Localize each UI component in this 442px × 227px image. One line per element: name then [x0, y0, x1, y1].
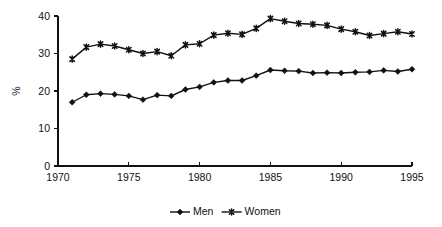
- x-tick-label: 1970: [46, 171, 70, 183]
- data-point: [183, 87, 189, 93]
- data-point: [126, 93, 132, 99]
- y-tick-label: 30: [38, 47, 50, 59]
- data-point: [112, 91, 118, 97]
- legend-label-women: Women: [245, 205, 281, 217]
- data-point: [197, 84, 203, 90]
- data-point: [409, 66, 415, 72]
- x-tick-label: 1980: [188, 171, 212, 183]
- data-point: [296, 68, 302, 74]
- line-chart-figure: 010203040 197019751980198519901995 % Men…: [0, 0, 442, 227]
- data-point: [367, 69, 373, 75]
- data-point: [381, 67, 387, 73]
- chart-canvas: 010203040 197019751980198519901995 % Men…: [0, 0, 442, 227]
- data-point: [225, 78, 231, 84]
- series-line-women: [72, 19, 412, 60]
- y-tick-label: 10: [38, 122, 50, 134]
- chart-legend: MenWomen: [170, 205, 281, 217]
- data-point: [211, 79, 217, 85]
- data-point: [395, 69, 401, 75]
- data-point: [253, 73, 259, 79]
- data-point: [98, 91, 104, 97]
- data-point: [282, 68, 288, 74]
- data-point: [324, 70, 330, 76]
- y-axis: 010203040: [38, 10, 58, 172]
- data-point: [140, 97, 146, 103]
- data-point: [69, 99, 75, 105]
- x-axis: 197019751980198519901995: [46, 162, 424, 183]
- y-axis-title: %: [10, 86, 22, 95]
- legend-label-men: Men: [193, 205, 214, 217]
- data-point: [154, 92, 160, 98]
- series-women: [70, 16, 414, 63]
- x-tick-label: 1975: [117, 171, 141, 183]
- data-point: [310, 70, 316, 76]
- data-point: [70, 56, 74, 62]
- series-men: [69, 66, 415, 105]
- x-tick-label: 1985: [259, 171, 283, 183]
- x-tick-label: 1995: [400, 171, 424, 183]
- data-point: [338, 70, 344, 76]
- y-tick-label: 40: [38, 10, 50, 22]
- x-tick-label: 1990: [330, 171, 354, 183]
- plot-area: [69, 16, 415, 106]
- y-axis-title-label: %: [10, 86, 22, 95]
- y-tick-label: 0: [44, 160, 50, 172]
- data-point: [83, 92, 89, 98]
- data-point: [239, 78, 245, 84]
- y-tick-label: 20: [38, 85, 50, 97]
- legend-marker-diamond: [177, 209, 183, 215]
- data-point: [168, 93, 174, 99]
- series-line-men: [72, 69, 412, 102]
- data-point: [352, 69, 358, 75]
- data-point: [268, 67, 274, 73]
